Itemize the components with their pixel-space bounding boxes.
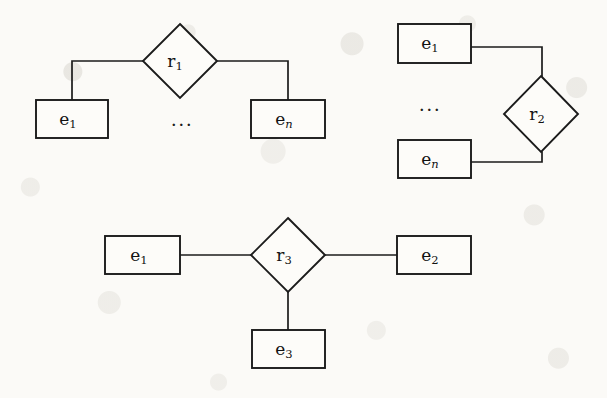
- diagram-group-2: r2 e1 en ...: [398, 24, 578, 178]
- er-diagram-figure: r1 e1 en ...: [0, 0, 607, 398]
- connector-line: [72, 61, 143, 100]
- diagram-group-1: r1 e1 en ...: [36, 24, 325, 138]
- connector-line: [218, 61, 288, 100]
- entity-node-e2[interactable]: e2: [397, 236, 471, 274]
- entity-node-e1[interactable]: e1: [105, 236, 180, 274]
- entity-node-en[interactable]: en: [398, 140, 471, 178]
- er-diagram-canvas: r1 e1 en ...: [0, 0, 607, 398]
- ellipsis-label: ...: [419, 93, 442, 115]
- relationship-node-r3[interactable]: r3: [251, 218, 325, 292]
- entity-node-e3[interactable]: e3: [252, 330, 325, 368]
- entity-node-e1[interactable]: e1: [36, 100, 108, 138]
- connector-line: [471, 47, 542, 76]
- diagram-group-3: r3 e1 e2 e3: [105, 218, 471, 368]
- connector-line: [471, 152, 542, 162]
- entity-node-e1[interactable]: e1: [398, 24, 471, 63]
- relationship-node-r1[interactable]: r1: [143, 24, 217, 98]
- relationship-node-r2[interactable]: r2: [504, 76, 578, 152]
- ellipsis-label: ...: [171, 108, 194, 130]
- entity-node-en[interactable]: en: [251, 100, 325, 138]
